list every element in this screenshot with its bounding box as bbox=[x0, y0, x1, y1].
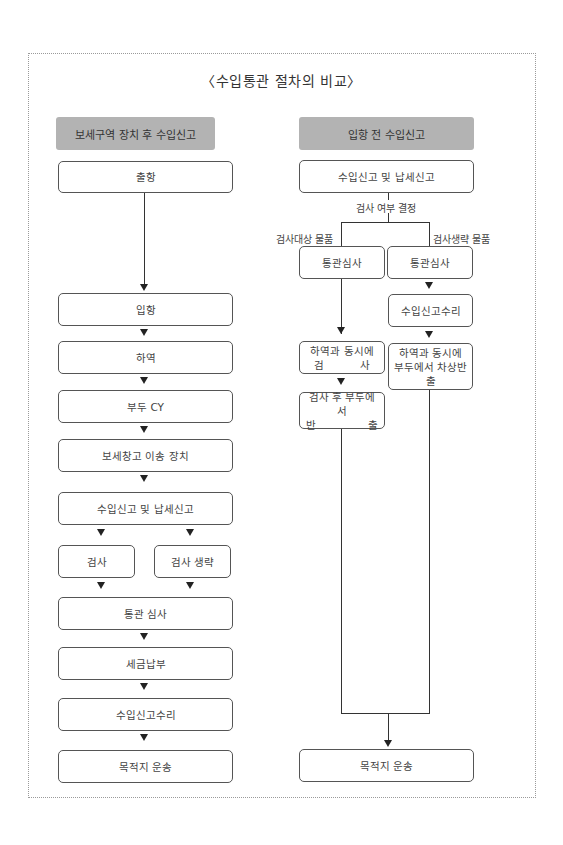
connector-line bbox=[341, 279, 342, 334]
text-fragment: 사 bbox=[360, 358, 378, 372]
text-line: 하역과 동시에 bbox=[399, 346, 462, 360]
step-destination-transport: 목적지 운송 bbox=[58, 750, 233, 783]
arrow-down-icon bbox=[140, 633, 148, 640]
left-column-header: 보세구역 장치 후 수입신고 bbox=[56, 117, 215, 150]
arrow-down-icon bbox=[384, 740, 392, 747]
branch-label-inspect: 검사대상 물품 bbox=[276, 231, 333, 246]
step-arrival: 입항 bbox=[58, 293, 233, 326]
branch-inspection: 검사 bbox=[58, 545, 135, 578]
arrow-down-icon bbox=[337, 378, 345, 385]
arrow-down-icon bbox=[97, 582, 105, 589]
connector-line bbox=[388, 193, 389, 200]
text-line: 검 사 bbox=[306, 358, 378, 372]
step-tax-payment: 세금납부 bbox=[58, 647, 233, 680]
connector-line bbox=[144, 193, 145, 286]
skip-unload-truck-release: 하역과 동시에 부두에서 차상반출 bbox=[388, 343, 473, 390]
step-unloading: 하역 bbox=[58, 341, 233, 374]
merge-connector bbox=[341, 429, 430, 714]
right-column-header: 입항 전 수입신고 bbox=[299, 117, 474, 150]
arrow-down-icon bbox=[140, 683, 148, 690]
arrow-down-icon bbox=[337, 327, 345, 334]
branch-split-line bbox=[341, 222, 430, 223]
arrow-down-icon bbox=[140, 475, 148, 482]
arrow-down-icon bbox=[140, 426, 148, 433]
step-import-declaration: 수입신고 및 납세신고 bbox=[58, 492, 233, 525]
branch-label-skip: 검사생략 물품 bbox=[433, 231, 490, 246]
arrow-down-icon bbox=[140, 377, 148, 384]
connector-line bbox=[429, 222, 430, 246]
text-line: 하역과 동시에 bbox=[310, 344, 373, 358]
right-destination-transport: 목적지 운송 bbox=[299, 749, 474, 782]
text-line: 검사 후 부두에서 bbox=[306, 390, 378, 418]
step-customs-review: 통관 심사 bbox=[58, 597, 233, 630]
decision-label: 검사 여부 결정 bbox=[356, 200, 416, 215]
step-declaration-accepted: 수입신고수리 bbox=[58, 698, 233, 731]
connector-line bbox=[429, 390, 430, 430]
arrow-down-icon bbox=[186, 529, 194, 536]
inspect-release-at-pier: 검사 후 부두에서 반 출 bbox=[299, 392, 385, 429]
step-pre-arrival-declaration: 수입신고 및 납세신고 bbox=[299, 160, 474, 193]
connector-line bbox=[388, 714, 389, 742]
arrow-down-icon bbox=[425, 282, 433, 289]
step-departure: 출항 bbox=[58, 161, 233, 193]
skip-declaration-accepted: 수입신고수리 bbox=[388, 294, 473, 327]
arrow-down-icon bbox=[97, 529, 105, 536]
arrow-down-icon bbox=[140, 284, 148, 291]
text-line: 부두에서 차상반출 bbox=[389, 360, 472, 388]
step-pier-cy: 부두 CY bbox=[58, 390, 233, 423]
arrow-down-icon bbox=[425, 331, 433, 338]
arrow-down-icon bbox=[140, 734, 148, 741]
arrow-down-icon bbox=[140, 329, 148, 336]
step-bonded-warehouse: 보세창고 이송 장치 bbox=[58, 439, 233, 472]
branch-inspection-skipped: 검사 생략 bbox=[154, 545, 231, 578]
arrow-down-icon bbox=[186, 582, 194, 589]
diagram-title: 〈수입통관 절차의 비교〉 bbox=[0, 70, 563, 90]
text-fragment: 검 bbox=[306, 358, 324, 372]
text-fragment: 반 bbox=[306, 418, 316, 432]
connector-line bbox=[341, 222, 342, 246]
skip-customs-review: 통관심사 bbox=[387, 246, 473, 279]
inspect-customs-review: 통관심사 bbox=[299, 246, 385, 279]
inspect-unload-inspection: 하역과 동시에 검 사 bbox=[299, 341, 385, 374]
